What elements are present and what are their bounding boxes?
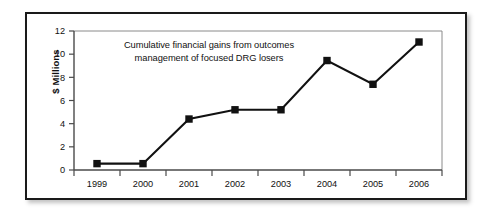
- y-axis-ticks: [69, 31, 74, 170]
- x-tick-label: 1999: [87, 179, 107, 189]
- x-tick-label: 2003: [271, 179, 291, 189]
- x-tick-label: 2001: [179, 179, 199, 189]
- x-axis-tick-labels: 1999 2000 2001 2002 2003 2004 2005 2006: [87, 179, 429, 189]
- annotation-line-1: Cumulative financial gains from outcomes: [84, 39, 334, 52]
- figure-frame: 0 2 4 6 8 10 12 199: [25, 12, 467, 200]
- data-point-marker: [277, 106, 284, 113]
- chart-annotation: Cumulative financial gains from outcomes…: [84, 39, 334, 64]
- y-tick-label: 6: [60, 96, 65, 106]
- data-point-marker: [185, 115, 192, 122]
- y-axis-title: $ Millions: [50, 32, 61, 112]
- data-point-marker: [369, 81, 376, 88]
- x-tick-label: 2002: [225, 179, 245, 189]
- data-point-marker: [93, 160, 100, 167]
- y-tick-label: 2: [60, 142, 65, 152]
- x-tick-label: 2000: [133, 179, 153, 189]
- data-point-marker: [231, 106, 238, 113]
- annotation-line-2: management of focused DRG losers: [84, 52, 334, 65]
- x-tick-label: 2006: [409, 179, 429, 189]
- y-tick-label: 8: [60, 73, 65, 83]
- data-point-marker: [415, 38, 422, 45]
- x-tick-label: 2005: [363, 179, 383, 189]
- x-tick-label: 2004: [317, 179, 337, 189]
- line-chart: 0 2 4 6 8 10 12 199: [27, 14, 465, 198]
- x-axis-ticks: [74, 170, 442, 176]
- data-point-marker: [139, 160, 146, 167]
- y-tick-label: 0: [60, 165, 65, 175]
- y-tick-label: 4: [60, 119, 65, 129]
